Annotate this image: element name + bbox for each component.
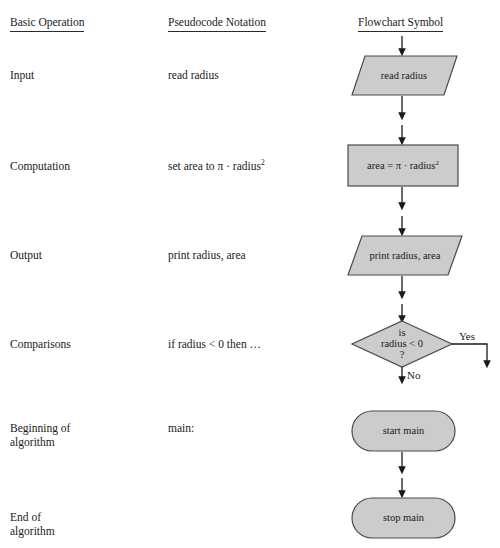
flowchart-label-read-radius: read radius [381,70,427,81]
flowchart-label-comparison-line1: is [398,327,405,338]
branch-label-no: No [407,369,421,381]
flowchart-label-print-radius-area: print radius, area [370,250,441,261]
flowchart-reference-table: Basic Operation Pseudocode Notation Flow… [0,0,500,548]
flowchart-label-computation-text: area = π · radius [367,160,435,171]
connector-arrow-branch-yes [452,344,487,364]
flowchart-label-start-main: start main [383,425,425,436]
branch-label-yes: Yes [459,330,475,342]
flowchart-label-comparison-line3: ? [400,349,405,360]
flowchart-diagram: read radius area = π · radius2 print rad… [0,0,500,548]
flowchart-label-stop-main: stop main [383,512,425,523]
flowchart-label-computation: area = π · radius2 [367,158,439,171]
flowchart-label-comparison-line2: radius < 0 [381,338,423,349]
flowchart-label-computation-exponent: 2 [435,158,439,166]
